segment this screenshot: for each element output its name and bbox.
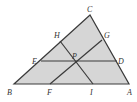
label-p: P — [71, 52, 77, 61]
label-h: H — [53, 31, 61, 40]
label-a: A — [126, 88, 132, 97]
triangle-abc — [14, 15, 129, 84]
label-g: G — [104, 31, 110, 40]
label-d: D — [117, 57, 124, 66]
label-f: F — [46, 88, 52, 97]
label-c: C — [87, 5, 93, 14]
label-e: E — [31, 57, 37, 66]
label-i: I — [89, 88, 93, 97]
triangle-diagram: C H G E P D B F I A — [0, 0, 137, 102]
label-b: B — [7, 88, 12, 97]
